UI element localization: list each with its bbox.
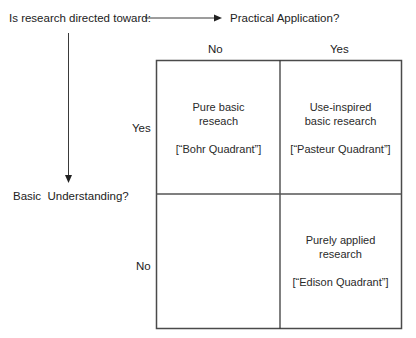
column-header-yes: Yes [330, 42, 349, 56]
quadrant-pasteur: Use-inspired basic research [“Pasteur Qu… [280, 61, 401, 194]
arrow-right-icon [145, 15, 222, 22]
quadrant-title-line1: Purely applied [306, 233, 376, 247]
quadrant-name: [“Pasteur Quadrant”] [290, 142, 390, 156]
quadrant-title-line2: reseach [199, 114, 238, 128]
row-header-yes: Yes [132, 121, 151, 135]
quadrant-title-line2: research [319, 247, 362, 261]
quadrant-bohr: Pure basic reseach [“Bohr Quadrant”] [157, 61, 280, 194]
arrow-down-icon [65, 33, 72, 183]
quadrant-empty [157, 194, 280, 328]
question-label: Is research directed toward: [9, 11, 151, 25]
quadrant-title-line2: basic research [305, 114, 377, 128]
quadrant-title-line1: Pure basic [193, 100, 245, 114]
y-axis-label: Basic Understanding? [13, 189, 129, 203]
row-header-no: No [136, 259, 151, 273]
x-axis-label: Practical Application? [230, 11, 339, 25]
quadrant-name: [“Edison Quadrant”] [293, 275, 389, 289]
column-header-no: No [208, 42, 223, 56]
quadrant-edison: Purely applied research [“Edison Quadran… [280, 194, 401, 328]
quadrant-title-line1: Use-inspired [310, 100, 372, 114]
quadrant-name: [“Bohr Quadrant”] [176, 142, 262, 156]
